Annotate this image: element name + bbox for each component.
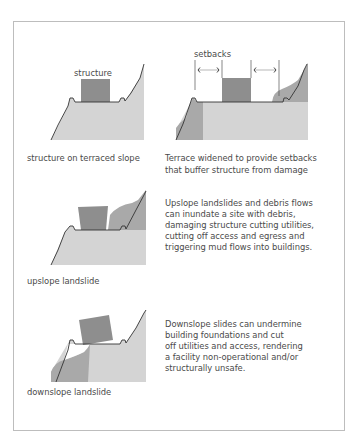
- upslope-description-line1: Upslope landslides and debris flows: [165, 198, 313, 209]
- upslope-description-line4: cutting off access and egress and: [165, 231, 304, 242]
- downslope-description-line1: Downslope slides can undermine: [165, 319, 302, 330]
- downslope-description-line3: off utilities and access, rendering: [165, 341, 303, 352]
- upslope-description-line2: can inundate a site with debris,: [165, 209, 296, 220]
- caption-terraced: structure on terraced slope: [27, 153, 140, 164]
- caption-setbacks-line2: that buffer structure from damage: [165, 165, 308, 176]
- downslope-description-line4: a facility non-operational and/or: [165, 352, 298, 363]
- structure-block: [79, 315, 113, 345]
- downslope-description-line5: structurally unsafe.: [165, 363, 245, 374]
- upslope-description-line5: triggering mud flows into buildings.: [165, 242, 312, 253]
- downslope-description-line2: building foundations and cut: [165, 330, 284, 341]
- caption-downslope: downslope landslide: [27, 387, 111, 398]
- upslope-description-line3: damaging structure cutting utilities,: [165, 220, 314, 231]
- caption-upslope: upslope landslide: [27, 276, 99, 287]
- caption-setbacks-line1: Terrace widened to provide setbacks: [165, 153, 317, 164]
